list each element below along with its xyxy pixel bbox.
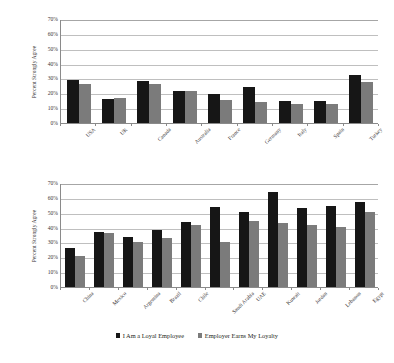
bar-group xyxy=(202,20,237,123)
bar xyxy=(152,230,162,287)
plot-area xyxy=(60,184,378,288)
y-axis-tick-label: 70% xyxy=(48,17,58,23)
bar xyxy=(149,84,161,123)
y-axis-tick-label: 0% xyxy=(51,121,58,127)
bar-group xyxy=(350,184,379,287)
bar xyxy=(133,242,143,287)
legend-swatch-icon xyxy=(116,333,120,337)
y-axis-tick-label: 50% xyxy=(48,47,58,53)
x-axis-tick xyxy=(60,288,61,290)
bar xyxy=(307,225,317,287)
bar-group xyxy=(177,184,206,287)
bar-group xyxy=(292,184,321,287)
bar xyxy=(102,99,114,123)
legend-label: I Am a Loyal Employee xyxy=(123,332,184,339)
x-axis-category-label: Spain xyxy=(333,127,346,140)
x-axis-tick xyxy=(291,288,292,290)
bar xyxy=(185,91,197,123)
bar-group xyxy=(119,184,148,287)
x-axis-category-label: Egypt xyxy=(371,291,384,304)
x-axis-category-label: Saudi Arabia xyxy=(231,291,255,315)
x-axis-category-label: USA xyxy=(85,127,97,139)
bar xyxy=(326,206,336,287)
bar-group xyxy=(234,184,263,287)
bar xyxy=(268,192,278,287)
y-axis-tick-label: 30% xyxy=(48,241,58,247)
x-axis-category-label: Germany xyxy=(264,127,282,145)
bar xyxy=(297,208,307,287)
x-axis-category-label: China xyxy=(82,291,95,304)
bar xyxy=(243,87,255,123)
y-axis-tick-label: 20% xyxy=(48,255,58,261)
bar xyxy=(67,80,79,123)
bar-group xyxy=(321,184,350,287)
x-axis-tick xyxy=(233,288,234,290)
bar xyxy=(278,223,288,287)
legend-item: I Am a Loyal Employee xyxy=(116,332,184,339)
y-axis-tick-label: 40% xyxy=(48,62,58,68)
legend-label: Employer Earns My Loyalty xyxy=(205,332,278,339)
bar xyxy=(279,101,291,123)
bar-group xyxy=(308,20,343,123)
x-axis-category-label: Italy xyxy=(297,127,308,138)
bar-group xyxy=(263,184,292,287)
x-axis-tick xyxy=(60,124,61,126)
bar-group xyxy=(148,184,177,287)
x-axis-category-label: UAE xyxy=(255,291,267,303)
y-axis-tick-label: 10% xyxy=(48,270,58,276)
bar xyxy=(349,75,361,123)
y-axis-tick-label: 10% xyxy=(48,106,58,112)
bar xyxy=(79,84,91,123)
x-axis-tick xyxy=(307,124,308,126)
bar xyxy=(249,221,259,287)
x-axis-category-label: Lebanon xyxy=(344,291,362,309)
y-axis-tick-labels: 0%10%20%30%40%50%60%70% xyxy=(36,0,58,180)
chart-developed-markets: Percent Strongly Agree0%10%20%30%40%50%6… xyxy=(0,0,394,180)
bar-group xyxy=(61,20,96,123)
y-axis-tick-label: 60% xyxy=(48,32,58,38)
y-axis-tick-label: 30% xyxy=(48,77,58,83)
bar-group xyxy=(132,20,167,123)
bar xyxy=(65,248,75,287)
bar xyxy=(361,82,373,123)
x-axis-category-label: France xyxy=(227,127,241,141)
x-axis-category-label: Canada xyxy=(157,127,173,143)
bar-group xyxy=(167,20,202,123)
x-axis-category-label: Argentina xyxy=(143,291,162,310)
bar xyxy=(355,202,365,287)
bar xyxy=(181,222,191,287)
bar-group xyxy=(96,20,131,123)
bar xyxy=(220,242,230,287)
bar-group xyxy=(344,20,379,123)
x-axis-category-label: Turkey xyxy=(369,127,384,142)
chart-legend: I Am a Loyal EmployeeEmployer Earns My L… xyxy=(0,332,394,339)
y-axis-tick-label: 0% xyxy=(51,285,58,291)
x-axis-tick xyxy=(349,288,350,290)
x-axis-tick xyxy=(95,124,96,126)
y-axis-tick-label: 60% xyxy=(48,196,58,202)
bar xyxy=(255,102,267,123)
bar xyxy=(191,225,201,287)
bar-group xyxy=(273,20,308,123)
x-axis-category-label: UK xyxy=(119,127,129,137)
bar xyxy=(208,94,220,123)
bar xyxy=(94,232,104,287)
x-axis-category-label: Brazil xyxy=(169,291,182,304)
bar xyxy=(104,233,114,287)
bar-group xyxy=(238,20,273,123)
x-axis-category-label: Kuwait xyxy=(286,291,301,306)
bar xyxy=(326,104,338,123)
bar xyxy=(220,100,232,123)
bar xyxy=(162,238,172,287)
y-axis-tick-label: 50% xyxy=(48,211,58,217)
bar-group xyxy=(206,184,235,287)
x-axis-tick xyxy=(147,288,148,290)
x-axis-tick xyxy=(118,288,119,290)
x-axis-tick xyxy=(272,124,273,126)
bar xyxy=(210,207,220,287)
bar xyxy=(75,256,85,287)
x-axis-tick xyxy=(201,124,202,126)
plot-area xyxy=(60,20,378,124)
y-axis-tick-label: 70% xyxy=(48,181,58,187)
bar xyxy=(314,101,326,123)
